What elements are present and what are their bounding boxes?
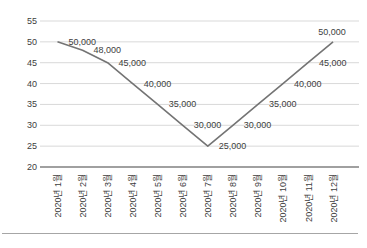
chart-page: 20253035404550552020년 1월2020년 2월2020년 3월…: [0, 0, 367, 248]
x-axis-category-label: 2020년 2월: [77, 174, 88, 218]
y-axis-tick-label: 35: [27, 99, 37, 109]
data-label: 30,000: [194, 120, 222, 130]
x-axis-category-label: 2020년 4월: [127, 174, 138, 218]
x-axis-category-label: 2020년 12월: [328, 174, 339, 223]
x-axis-category-label: 2020년 9월: [252, 174, 263, 218]
x-axis-category-label: 2020년 1월: [52, 174, 63, 218]
series-line: [58, 42, 334, 146]
data-label: 50,000: [318, 27, 346, 37]
data-label: 25,000: [219, 141, 247, 151]
data-label: 45,000: [119, 58, 147, 68]
data-label: 50,000: [69, 37, 97, 47]
x-axis-category-label: 2020년 10월: [277, 174, 288, 223]
data-label: 30,000: [244, 120, 272, 130]
x-axis-category-label: 2020년 8월: [227, 174, 238, 218]
data-label: 35,000: [169, 99, 197, 109]
data-label: 40,000: [294, 79, 322, 89]
x-axis-category-label: 2020년 7월: [202, 174, 213, 218]
y-axis-tick-label: 30: [27, 120, 37, 130]
data-label: 40,000: [144, 79, 172, 89]
y-axis-tick-label: 50: [27, 37, 37, 47]
x-axis-category-label: 2020년 11월: [303, 174, 314, 222]
x-axis-category-label: 2020년 6월: [177, 174, 188, 218]
x-axis-category-label: 2020년 3월: [102, 174, 113, 218]
y-axis-tick-label: 40: [27, 79, 37, 89]
x-axis-category-label: 2020년 5월: [152, 174, 163, 218]
line-chart: 20253035404550552020년 1월2020년 2월2020년 3월…: [0, 0, 367, 248]
y-axis-tick-label: 20: [27, 162, 37, 172]
data-label: 35,000: [269, 99, 297, 109]
y-axis-tick-label: 55: [27, 16, 37, 26]
y-axis-tick-label: 25: [27, 141, 37, 151]
y-axis-tick-label: 45: [27, 58, 37, 68]
data-label: 45,000: [319, 58, 347, 68]
data-label: 48,000: [94, 45, 122, 55]
